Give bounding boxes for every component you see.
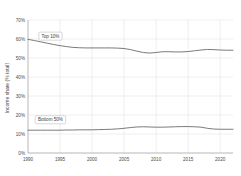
annotation-top-10: Top 10% xyxy=(39,32,62,40)
y-axis-title: Income share (% total) xyxy=(4,63,10,114)
annotation-label: Bottom 50% xyxy=(38,117,63,122)
y-tick-label: 0% xyxy=(18,151,25,156)
y-tick-label: 50% xyxy=(16,56,25,61)
x-tick-label: 2010 xyxy=(151,157,162,162)
x-tick-label: 2020 xyxy=(215,157,226,162)
y-tick-label: 20% xyxy=(16,113,25,118)
x-tick-label: 1995 xyxy=(55,157,66,162)
series-line-bottom-50 xyxy=(28,127,233,131)
x-tick-label: 2005 xyxy=(119,157,130,162)
x-tick-label: 2000 xyxy=(87,157,98,162)
y-tick-labels: 0%10%20%30%40%50%60%70% xyxy=(16,18,25,156)
y-tick-label: 30% xyxy=(16,94,25,99)
income-share-chart: 0%10%20%30%40%50%60%70% 1990199520002005… xyxy=(0,0,241,176)
x-tick-label: 2015 xyxy=(183,157,194,162)
annotation-bottom-50: Bottom 50% xyxy=(35,116,66,124)
chart-canvas: 0%10%20%30%40%50%60%70% 1990199520002005… xyxy=(0,0,241,176)
y-tick-label: 70% xyxy=(16,18,25,23)
y-tick-label: 10% xyxy=(16,132,25,137)
x-tick-label: 1990 xyxy=(23,157,34,162)
annotation-label: Top 10% xyxy=(41,34,59,39)
series-line-top-10 xyxy=(28,39,233,53)
x-tick-labels: 1990199520002005201020152020 xyxy=(23,157,226,162)
y-tick-label: 60% xyxy=(16,37,25,42)
y-tick-label: 40% xyxy=(16,75,25,80)
